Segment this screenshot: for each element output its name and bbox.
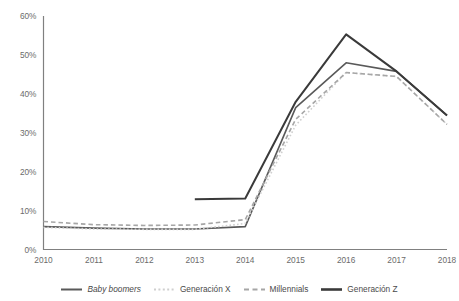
x-tick-label: 2011 — [85, 255, 103, 265]
y-tick-label: 0% — [25, 245, 38, 255]
series-line-millennials — [44, 73, 448, 226]
y-tick-label: 40% — [20, 89, 37, 99]
y-tick-label: 60% — [20, 11, 37, 21]
x-tick-label: 2018 — [438, 255, 457, 265]
y-axis-tick-labels: 0%10%20%30%40%50%60% — [20, 11, 37, 255]
y-tick-label: 20% — [20, 167, 37, 177]
y-tick-label: 50% — [20, 50, 37, 60]
y-tick-label: 30% — [20, 128, 37, 138]
series-line-baby-boomers — [44, 63, 448, 229]
legend-label-baby-boomers: Baby boomers — [87, 284, 141, 294]
legend-label-generacion-x: Generación X — [180, 284, 231, 294]
chart-legend: Baby boomers Generación X Millennials Ge… — [0, 279, 459, 299]
series-line-generaci-n-x — [44, 73, 448, 230]
x-tick-label: 2013 — [186, 255, 205, 265]
y-tick-label: 10% — [20, 206, 37, 216]
legend-label-generacion-z: Generación Z — [347, 284, 397, 294]
x-tick-label: 2016 — [337, 255, 356, 265]
line-chart: 0%10%20%30%40%50%60% 2010201120122013201… — [0, 0, 459, 301]
legend-item-baby-boomers[interactable]: Baby boomers — [61, 284, 141, 294]
legend-item-millennials[interactable]: Millennials — [244, 284, 309, 294]
legend-label-millennials: Millennials — [270, 284, 309, 294]
x-axis-tick-labels: 201020112012201320142015201620172018 — [34, 255, 456, 265]
x-tick-label: 2017 — [387, 255, 406, 265]
plot-area: 0%10%20%30%40%50%60% 2010201120122013201… — [0, 0, 459, 301]
x-tick-label: 2015 — [286, 255, 305, 265]
series-lines — [44, 34, 448, 229]
legend-swatch-generacion-z — [321, 285, 342, 294]
legend-item-generacion-x[interactable]: Generación X — [154, 284, 231, 294]
legend-swatch-millennials — [244, 285, 265, 294]
legend-swatch-baby-boomers — [61, 285, 82, 294]
legend-swatch-generacion-x — [154, 285, 175, 294]
legend-item-generacion-z[interactable]: Generación Z — [321, 284, 397, 294]
x-tick-label: 2012 — [135, 255, 154, 265]
x-tick-label: 2014 — [236, 255, 255, 265]
x-tick-label: 2010 — [34, 255, 53, 265]
series-line-generaci-n-z — [195, 34, 447, 199]
chart-canvas: 0%10%20%30%40%50%60% 2010201120122013201… — [0, 0, 459, 301]
